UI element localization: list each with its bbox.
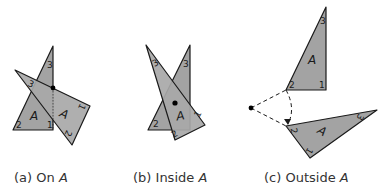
rotation-center-dot [172, 100, 177, 105]
rotation-arc [286, 90, 292, 124]
caption-c: (c) Outside A [264, 170, 349, 185]
panel-b: 3 2 3 A 1 2 [146, 45, 205, 140]
panel-a: 3 2 1 A 3 A 1 2 [13, 46, 90, 145]
vertex-label-2: 2 [153, 119, 159, 129]
dashed-radius-to-rotated [251, 108, 286, 126]
dashed-radius-to-original [251, 90, 286, 108]
arc-arrowhead-icon [284, 119, 291, 125]
rotation-figure: 3 2 1 A 3 A 1 2 3 2 3 A 1 2 [0, 0, 387, 196]
caption-b: (b) Inside A [133, 170, 207, 185]
caption-variable: A [340, 170, 349, 185]
rotation-center-dot [249, 106, 254, 111]
vertex-label-3: 3 [183, 59, 189, 69]
caption-prefix: (b) [133, 170, 151, 185]
caption-text: Inside [156, 170, 195, 185]
vertex-label-1: 1 [47, 120, 53, 130]
caption-a: (a) On A [14, 170, 68, 185]
caption-variable: A [198, 170, 207, 185]
vertex-label-2: 2 [16, 120, 22, 130]
vertex-label-3: 3 [320, 16, 326, 26]
caption-prefix: (a) [14, 170, 32, 185]
vertex-label-3: 3 [47, 60, 53, 70]
caption-prefix: (c) [264, 170, 281, 185]
shape-label-A: A [307, 53, 316, 67]
rotation-diagram: 3 2 1 A 3 A 1 2 3 2 3 A 1 2 [0, 0, 387, 196]
vertex-label-1: 1 [319, 80, 325, 90]
caption-text: Outside [285, 170, 335, 185]
caption-text: On [36, 170, 54, 185]
shape-label-A: A [29, 109, 38, 123]
rotation-center-dot [51, 86, 56, 91]
caption-variable: A [59, 170, 68, 185]
vertex-label-2: 2 [289, 80, 295, 90]
panel-c: 3 2 1 A 2 A 3 1 [249, 7, 377, 158]
